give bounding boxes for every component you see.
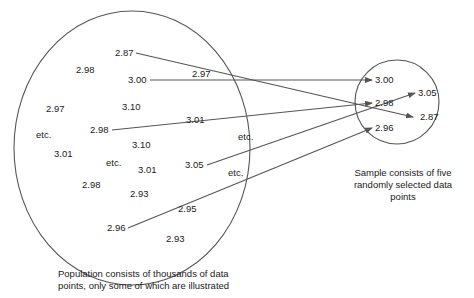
population-value: 3.00 [128, 74, 147, 85]
sample-caption-line3: points [390, 191, 416, 202]
population-value: 2.98 [82, 179, 101, 190]
sample-circle [355, 60, 439, 144]
population-value: 2.97 [192, 68, 211, 79]
population-value: 3.05 [185, 159, 204, 170]
population-etc: etc. [106, 157, 121, 168]
sample-value: 2.96 [375, 122, 394, 133]
population-value: 3.01 [186, 114, 205, 125]
population-values: 2.87 2.98 3.00 2.97 3.10 etc. 2.98 3.10 … [36, 47, 253, 244]
arrow-2.98 [112, 103, 372, 130]
population-caption-line1: Population consists of thousands of data [58, 268, 229, 279]
population-value: 2.95 [178, 203, 197, 214]
sampling-diagram: 2.87 2.98 3.00 2.97 3.10 etc. 2.98 3.10 … [0, 0, 474, 298]
population-etc: etc. [36, 129, 51, 140]
population-caption-line2: points, only some of which are illustrat… [58, 280, 229, 291]
sample-value: 2.98 [375, 97, 394, 108]
population-value: 3.01 [54, 148, 73, 159]
population-value: 2.98 [90, 124, 109, 135]
population-value: 3.10 [132, 139, 151, 150]
population-value: 2.93 [130, 188, 149, 199]
population-value: 2.98 [76, 64, 95, 75]
sample-values: 3.00 3.05 2.98 2.87 2.96 [375, 74, 439, 133]
population-value: 2.97 [46, 103, 65, 114]
population-etc: etc. [228, 167, 243, 178]
population-value: 3.10 [122, 101, 141, 112]
sample-value: 2.87 [420, 111, 439, 122]
sample-caption-line1: Sample consists of five [354, 167, 451, 178]
sample-value: 3.05 [418, 87, 437, 98]
population-etc: etc. [238, 131, 253, 142]
sample-value: 3.00 [375, 74, 394, 85]
population-value: 2.87 [115, 47, 134, 58]
arrow-2.87 [136, 53, 413, 117]
population-value: 3.01 [138, 164, 157, 175]
sample-caption-line2: randomly selected data [354, 179, 453, 190]
population-value: 2.93 [166, 233, 185, 244]
population-value: 2.96 [107, 222, 126, 233]
